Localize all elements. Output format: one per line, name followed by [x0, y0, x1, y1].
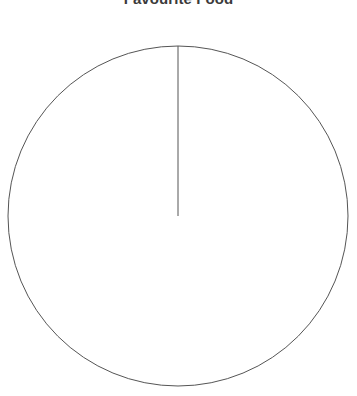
- chart-canvas: Favourite Food: [0, 0, 357, 396]
- pie-chart-plot: [0, 0, 357, 396]
